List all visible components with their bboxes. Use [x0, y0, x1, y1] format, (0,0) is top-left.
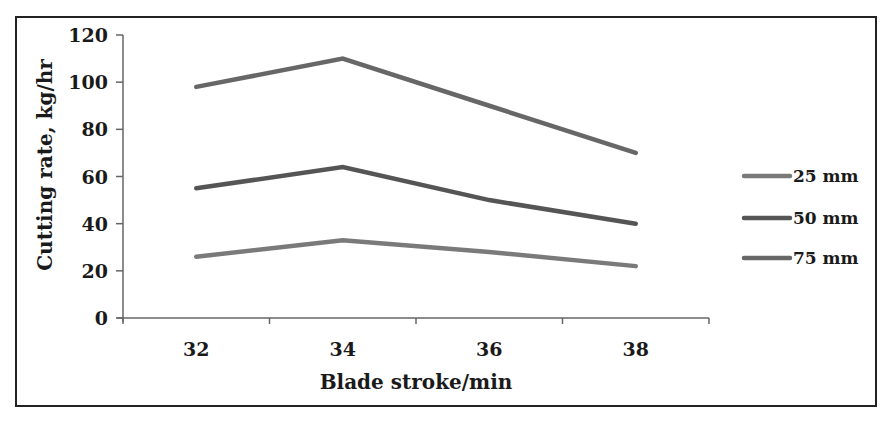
series-line-25-mm — [196, 240, 636, 266]
legend-label: 50 mm — [793, 208, 859, 228]
series-line-75-mm — [196, 59, 636, 153]
x-tick-label: 34 — [330, 338, 356, 360]
y-tick-label: 20 — [82, 260, 108, 282]
series-lines — [196, 59, 636, 267]
x-axis-title: Blade stroke/min — [320, 370, 513, 394]
y-axis-title: Cutting rate, kg/hr — [33, 59, 57, 271]
legend: 25 mm50 mm75 mm — [744, 166, 859, 268]
y-tick-label: 0 — [95, 307, 108, 329]
series-line-50-mm — [196, 167, 636, 224]
line-chart: 020406080100120 32343638 25 mm50 mm75 mm… — [0, 0, 891, 427]
x-axis: 32343638 — [117, 318, 709, 360]
y-tick-label: 40 — [82, 213, 108, 235]
x-tick-label: 32 — [183, 338, 209, 360]
x-tick-label: 38 — [623, 338, 649, 360]
y-tick-label: 100 — [68, 71, 108, 93]
y-tick-label: 80 — [82, 118, 108, 140]
y-tick-label: 60 — [82, 166, 108, 188]
y-axis: 020406080100120 — [68, 24, 123, 329]
x-tick-label: 36 — [476, 338, 502, 360]
y-tick-label: 120 — [68, 24, 108, 46]
legend-label: 75 mm — [793, 248, 859, 268]
legend-label: 25 mm — [793, 166, 859, 186]
